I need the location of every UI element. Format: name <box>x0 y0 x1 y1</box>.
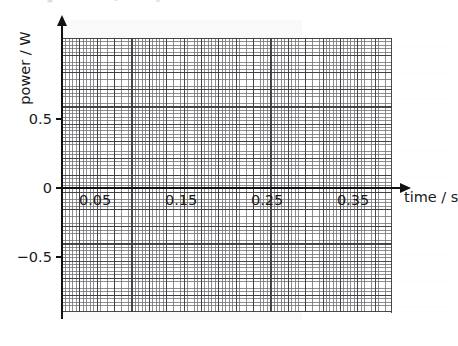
page-bleed-artifact-top <box>38 0 178 7</box>
arrow-up-icon <box>57 15 67 26</box>
y-tick-0 <box>56 187 63 189</box>
y-axis-title: power / W <box>17 18 33 118</box>
y-tick-label-0: 0 <box>0 180 52 196</box>
y-tick-0.5 <box>56 118 63 120</box>
y-tick-label-minus-0.5: −0.5 <box>0 249 52 265</box>
x-tick-label-0.05: 0.05 <box>79 192 111 208</box>
x-tick-label-0.25: 0.25 <box>251 192 283 208</box>
y-tick-minus-0.5 <box>56 256 63 258</box>
x-axis-title: time / s <box>404 189 458 205</box>
graph-paper-grid <box>62 38 392 312</box>
y-axis-line <box>61 22 63 319</box>
grid-bottom-edge <box>62 311 392 312</box>
x-axis-line <box>58 187 403 189</box>
x-tick-label-0.35: 0.35 <box>337 192 369 208</box>
x-tick-label-0.15: 0.15 <box>165 192 197 208</box>
grid-right-edge <box>391 38 392 313</box>
